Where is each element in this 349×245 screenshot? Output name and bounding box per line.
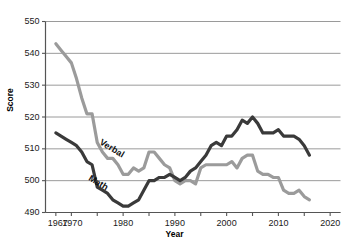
y-tick-label: 550 [6,17,40,26]
x-tick-label: 2000 [212,219,242,228]
y-tick-label: 530 [6,81,40,90]
y-tick-label: 490 [6,208,40,217]
y-tick-label: 500 [6,176,40,185]
y-tick-label: 510 [6,144,40,153]
x-tick-label: 1980 [108,219,138,228]
y-tick-label: 540 [6,49,40,58]
y-tick-label: 520 [6,113,40,122]
x-tick-label: 2010 [263,219,293,228]
sat-score-line-chart: Score Year 490500510520530540550 1967197… [0,0,349,245]
x-tick-label: 2020 [315,219,345,228]
x-tick-label: 1990 [160,219,190,228]
x-tick-label: 1970 [57,219,87,228]
plot-area [0,0,349,245]
